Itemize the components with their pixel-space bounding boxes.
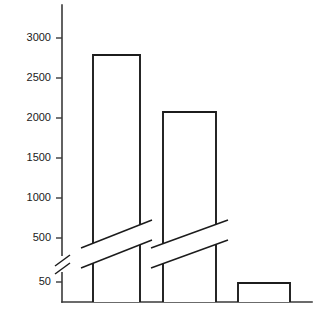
y-tick-label: 50 <box>39 275 51 287</box>
y-tick-label: 1500 <box>27 151 51 163</box>
chart-canvas: 3000250020001500100050050 <box>0 0 326 320</box>
y-tick-label: 1000 <box>27 191 51 203</box>
y-tick-label: 2000 <box>27 111 51 123</box>
bar-3 <box>238 283 290 302</box>
bar-1 <box>93 55 140 302</box>
y-tick-label: 3000 <box>27 31 51 43</box>
bar-2 <box>163 112 216 302</box>
bar-chart-figure: 3000250020001500100050050 2800 2090 50 <box>0 0 326 320</box>
y-tick-label: 500 <box>33 231 51 243</box>
y-axis-break-marker <box>55 255 70 274</box>
y-tick-label: 2500 <box>27 71 51 83</box>
